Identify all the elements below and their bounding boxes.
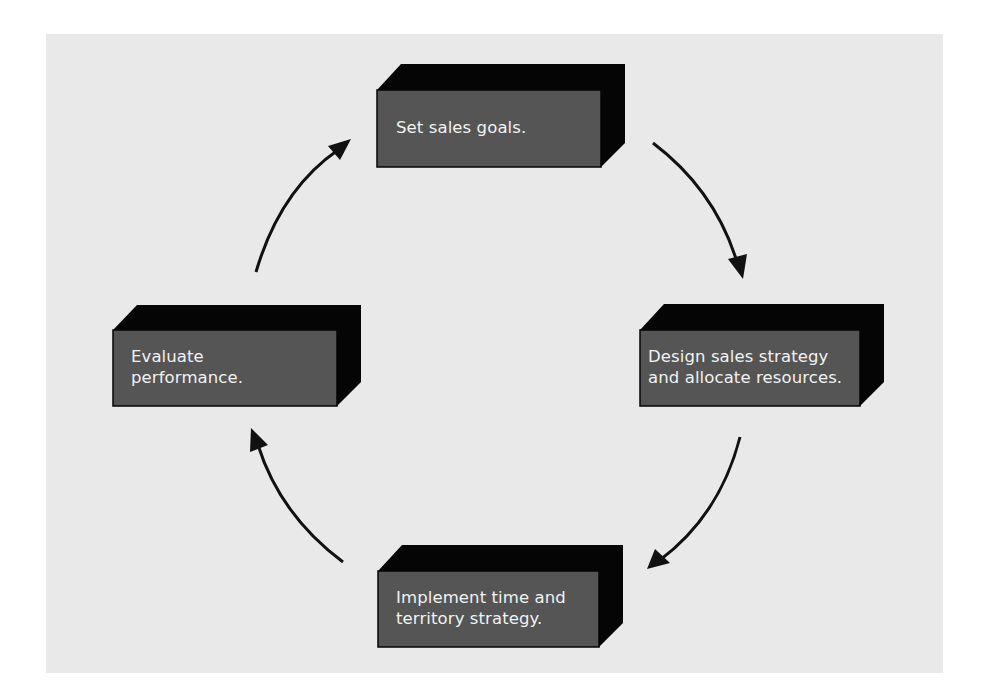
step-label-line: Implement time and bbox=[396, 587, 566, 608]
step-label-evaluate: Evaluate performance. bbox=[131, 346, 243, 388]
step-label-line: Evaluate bbox=[131, 346, 243, 367]
step-label-line: and allocate resources. bbox=[648, 367, 842, 388]
step-label-line: Set sales goals. bbox=[396, 117, 526, 138]
arrow-design-to-implement bbox=[647, 437, 740, 569]
step-box-set-goals bbox=[377, 64, 625, 167]
step-label-line: territory strategy. bbox=[396, 608, 566, 629]
step-label-design-strategy: Design sales strategy and allocate resou… bbox=[648, 346, 842, 388]
arrow-set-goals-to-design bbox=[653, 143, 747, 279]
arrow-implement-to-evaluate bbox=[250, 428, 343, 562]
step-label-line: performance. bbox=[131, 367, 243, 388]
arrow-evaluate-to-set-goals bbox=[256, 139, 351, 272]
step-label-implement: Implement time and territory strategy. bbox=[396, 587, 566, 629]
step-label-set-goals: Set sales goals. bbox=[396, 117, 526, 138]
step-label-line: Design sales strategy bbox=[648, 346, 842, 367]
